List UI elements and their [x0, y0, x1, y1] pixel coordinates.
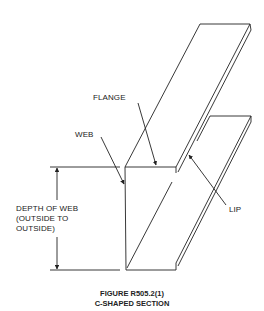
web-face	[125, 167, 176, 270]
depth-label-line2: (OUTSIDE TO	[16, 214, 68, 224]
upper-flange	[125, 24, 251, 173]
depth-label-line3: OUTSIDE)	[16, 224, 55, 234]
lip-label: LIP	[229, 205, 241, 215]
web-label: WEB	[75, 130, 94, 140]
flange-label: FLANGE	[93, 93, 126, 103]
figure-subtitle: C-SHAPED SECTION	[0, 299, 264, 309]
c-section-drawing	[0, 0, 264, 311]
figure-title: FIGURE R505.2(1)	[0, 289, 264, 299]
depth-label-line1: DEPTH OF WEB	[16, 204, 78, 214]
lower-flange	[176, 116, 251, 270]
leader-lines	[101, 103, 226, 205]
